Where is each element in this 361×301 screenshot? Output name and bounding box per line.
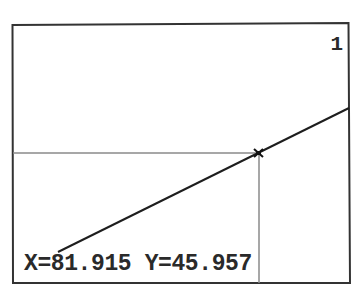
calculator-graph-screen: 1 X=81.915 Y=45.957 [0,0,361,301]
graph-number-label: 1 [330,33,343,56]
y-coordinate: Y=45.957 [145,251,252,277]
plot-line [58,108,349,252]
x-coordinate: X=81.915 [24,251,131,277]
trace-coordinates: X=81.915 Y=45.957 [24,251,252,277]
